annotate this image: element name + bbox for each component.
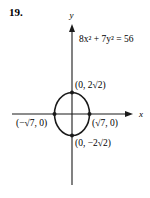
equation-label: 8x² + 7y² = 56 — [79, 34, 134, 44]
top-vertex-dot — [70, 91, 74, 95]
top-vertex-label: (0, 2√2) — [75, 80, 106, 91]
ellipse-graph: 19. y x 8x² + 7y² = 56 (0, 2√2) (−√7, 0)… — [0, 0, 150, 198]
right-vertex-dot — [88, 112, 92, 116]
left-vertex-dot — [53, 112, 57, 116]
left-vertex-label: (−√7, 0) — [16, 118, 47, 129]
right-vertex-label: (√7, 0) — [92, 118, 118, 129]
y-axis-label: y — [69, 10, 74, 20]
problem-number: 19. — [9, 6, 23, 18]
x-axis-arrow-icon — [125, 111, 133, 117]
bottom-vertex-label: (0, −2√2) — [75, 138, 111, 149]
y-axis-arrow-icon — [69, 24, 75, 32]
bottom-vertex-dot — [70, 134, 74, 138]
x-axis-label: x — [138, 109, 143, 119]
